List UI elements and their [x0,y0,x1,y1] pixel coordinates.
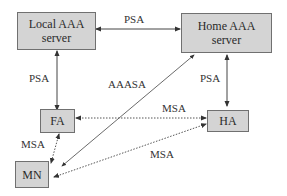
home-aaa-server-node: Home AAA server [181,13,272,53]
msa-fa-ha-label: MSA [162,102,186,114]
fa-label: FA [50,114,64,128]
mn-label: MN [22,168,41,182]
home-aaa-server-label-line1: Home AAA [198,19,256,33]
aaasa-label: AAASA [108,78,146,90]
local-aaa-server-label-line1: Local AAA [29,17,85,31]
fa-node: FA [40,109,75,133]
psa-left-label: PSA [29,72,49,84]
local-aaa-server-label-line2: server [29,31,85,45]
msa-mn-ha-label: MSA [150,148,174,160]
local-aaa-server-node: Local AAA server [17,12,96,50]
msa-fa-mn-label: MSA [21,138,45,150]
psa-top-label: PSA [124,13,144,25]
mn-node: MN [15,161,49,188]
edge-mn-ha [54,124,206,177]
psa-right-label: PSA [200,72,220,84]
ha-node: HA [207,110,249,132]
home-aaa-server-label-line2: server [198,33,256,47]
edge-fa-mn [51,134,59,163]
ha-label: HA [219,114,236,128]
